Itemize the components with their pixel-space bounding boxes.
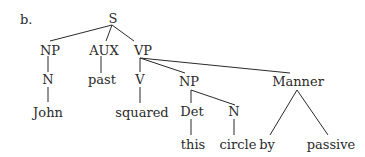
- node-manner: Manner: [272, 74, 325, 89]
- edge-np-n-obj: [191, 90, 235, 105]
- node-np-object: NP: [179, 74, 199, 89]
- node-n-object: N: [228, 104, 239, 119]
- edge-s-aux: [106, 25, 112, 41]
- edge-manner-passive: [297, 90, 328, 135]
- edge-manner-by: [270, 90, 297, 135]
- leaf-circle: circle: [220, 137, 257, 152]
- node-s: S: [109, 11, 118, 26]
- node-det: Det: [180, 104, 204, 119]
- node-vp: VP: [133, 43, 152, 58]
- leaf-by: by: [259, 137, 275, 152]
- leaf-squared: squared: [115, 105, 168, 120]
- node-np-subject: NP: [40, 43, 60, 58]
- leaf-passive: passive: [307, 137, 356, 152]
- leaf-this: this: [181, 137, 205, 152]
- edge-s-vp: [112, 25, 134, 41]
- edge-s-np: [50, 25, 112, 41]
- leaf-john: John: [31, 105, 63, 120]
- node-v: V: [134, 72, 145, 87]
- node-n-subject: N: [42, 72, 53, 87]
- leaf-past: past: [88, 72, 117, 87]
- example-label: b.: [20, 12, 32, 27]
- tree-labels: b. S NP AUX VP N past V NP Manner John s…: [20, 11, 356, 152]
- node-aux: AUX: [88, 43, 119, 58]
- syntax-tree: b. S NP AUX VP N past V NP Manner John s…: [0, 0, 365, 157]
